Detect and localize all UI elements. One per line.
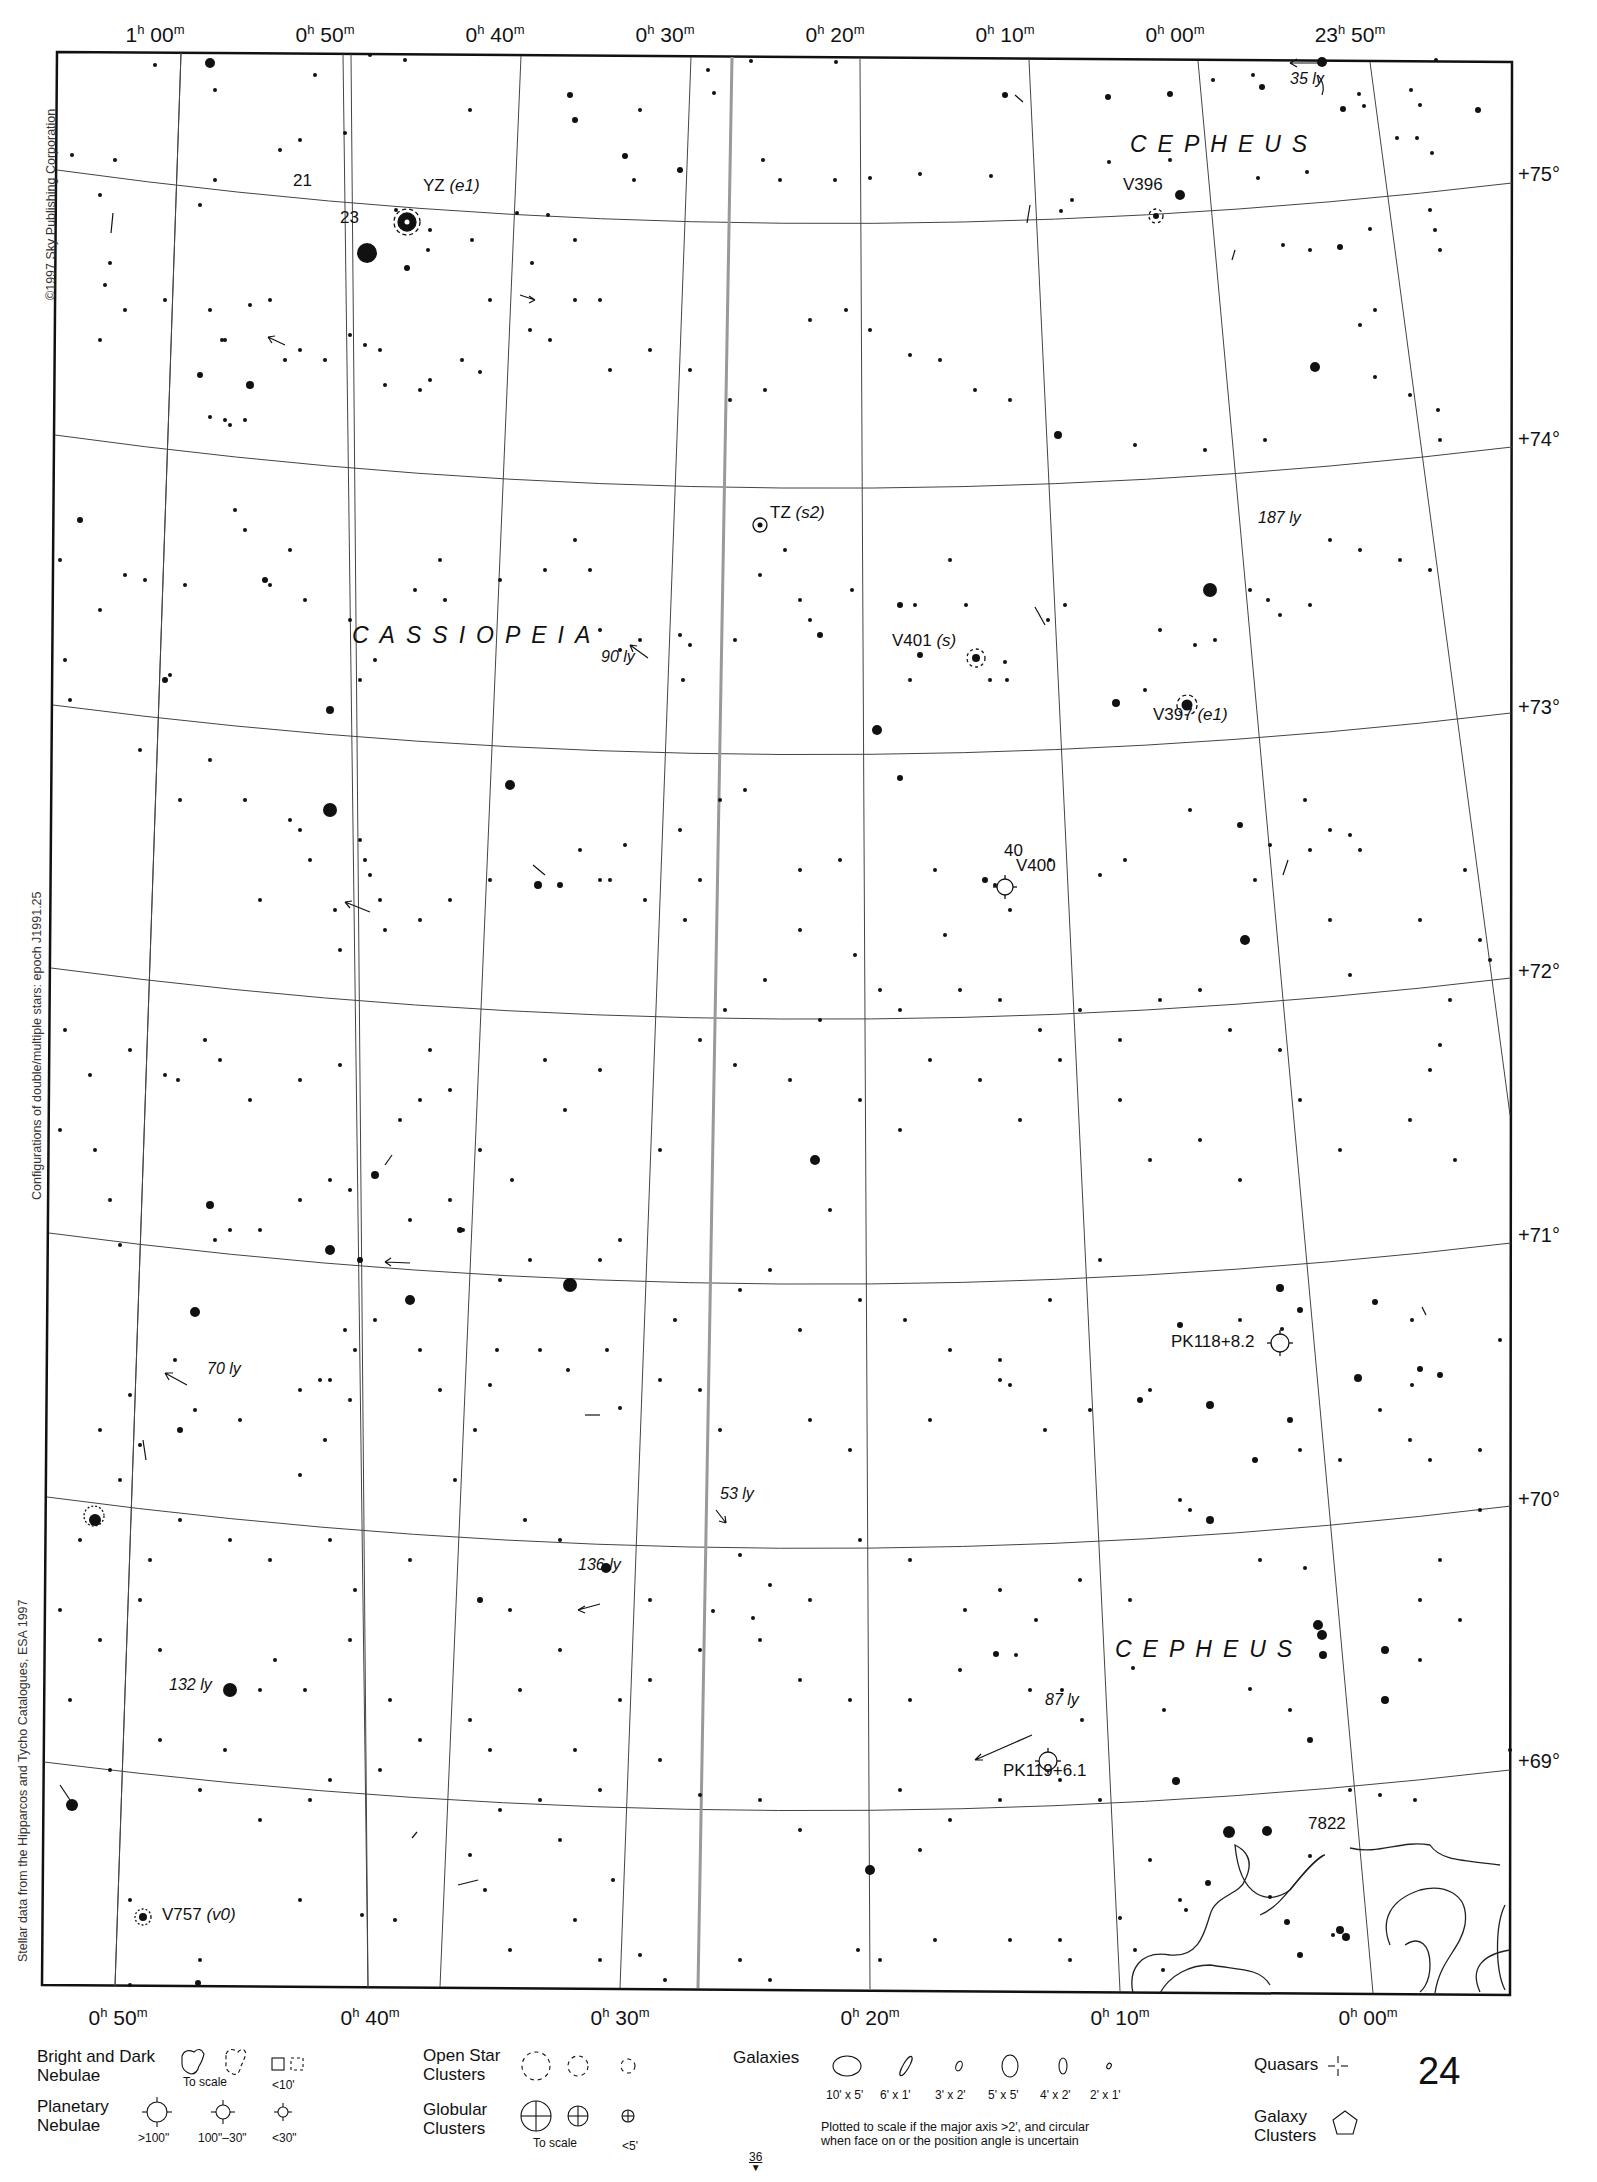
ra-label: 0h 50m	[296, 22, 355, 47]
star	[778, 178, 782, 182]
star	[128, 1393, 132, 1397]
star	[220, 338, 224, 342]
star	[298, 1078, 302, 1082]
star	[338, 1063, 342, 1067]
star	[394, 208, 398, 212]
star	[618, 1698, 622, 1702]
adjacent-page-ref[interactable]: 36 ▼	[749, 2150, 762, 2172]
star	[1112, 699, 1120, 707]
star	[712, 91, 716, 95]
star	[982, 877, 988, 883]
star	[298, 1388, 302, 1392]
legend-galaxies-label: Galaxies	[733, 2048, 799, 2067]
star	[413, 588, 417, 592]
star	[1098, 1258, 1102, 1262]
star	[783, 548, 787, 552]
star	[1203, 448, 1207, 452]
star	[58, 1128, 62, 1132]
star	[897, 602, 903, 608]
star	[964, 603, 968, 607]
star	[898, 1008, 902, 1012]
star	[530, 261, 534, 265]
star	[1206, 1401, 1214, 1409]
star	[1058, 1938, 1062, 1942]
star	[323, 803, 337, 817]
star	[1478, 938, 1482, 942]
star	[978, 1078, 982, 1082]
ra-label: 0h 50m	[89, 2005, 148, 2030]
star	[838, 858, 842, 862]
star	[238, 1418, 242, 1422]
star	[278, 148, 282, 152]
star	[1342, 1933, 1350, 1941]
star	[543, 568, 547, 572]
star	[918, 1848, 922, 1852]
star	[438, 558, 442, 562]
ra-lines	[115, 53, 520, 1987]
star	[833, 178, 837, 182]
star	[63, 658, 67, 662]
star	[1428, 208, 1432, 212]
star	[558, 1538, 562, 1542]
dec-label: +75°	[1518, 163, 1560, 186]
star	[1088, 1408, 1092, 1412]
star	[405, 1295, 415, 1305]
star	[1281, 243, 1285, 247]
star	[323, 358, 327, 362]
star	[1336, 1926, 1344, 1934]
star	[1438, 1558, 1442, 1562]
planetary-nebula-icons	[130, 2094, 320, 2130]
star	[498, 578, 502, 582]
star	[749, 59, 753, 63]
ra-label: 0h 40m	[466, 22, 525, 47]
star	[468, 1718, 472, 1722]
star	[648, 1678, 652, 1682]
star	[323, 1438, 327, 1442]
star	[548, 338, 552, 342]
ra-label: 0h 00m	[1146, 22, 1205, 47]
star	[1259, 84, 1265, 90]
star	[1338, 1148, 1342, 1152]
star	[1068, 1958, 1072, 1962]
star	[1223, 1826, 1235, 1838]
star	[1268, 1895, 1272, 1899]
star	[1034, 1618, 1038, 1622]
star	[706, 68, 710, 72]
star	[1307, 1737, 1313, 1743]
star	[1448, 998, 1452, 1002]
star	[208, 758, 212, 762]
star	[538, 1798, 542, 1802]
star	[1354, 1374, 1362, 1382]
star	[1297, 1307, 1303, 1313]
star	[418, 1348, 422, 1352]
star	[510, 1178, 514, 1182]
star	[844, 308, 848, 312]
star	[1078, 1008, 1082, 1012]
star	[273, 1658, 277, 1662]
star	[158, 1648, 162, 1652]
star	[118, 1478, 122, 1482]
star	[448, 898, 452, 902]
star	[123, 573, 127, 577]
star	[268, 583, 272, 587]
star	[1252, 1457, 1258, 1463]
arrow-down-icon: ▼	[749, 2164, 762, 2172]
star	[1428, 568, 1432, 572]
star	[213, 88, 217, 92]
star	[1258, 1558, 1262, 1562]
dec-label: +69°	[1518, 1750, 1560, 1773]
star	[718, 1428, 722, 1432]
star	[163, 1073, 167, 1077]
star	[897, 775, 903, 781]
star	[1028, 1688, 1032, 1692]
star	[228, 1538, 232, 1542]
star	[1413, 1798, 1417, 1802]
star	[768, 1268, 772, 1272]
star	[1203, 583, 1217, 597]
ra-label: 1h 00m	[126, 22, 185, 47]
star	[303, 598, 307, 602]
star	[258, 1688, 262, 1692]
star	[688, 368, 692, 372]
star	[908, 678, 912, 682]
star	[698, 1038, 702, 1042]
